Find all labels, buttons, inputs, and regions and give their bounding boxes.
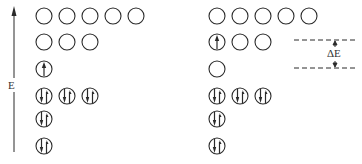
orbital-empty	[82, 8, 98, 24]
energy-axis-label: E	[8, 78, 15, 92]
orbital-empty	[59, 8, 75, 24]
orbital-empty	[301, 8, 317, 24]
orbital-paired	[209, 138, 225, 154]
orbital-paired	[59, 88, 75, 104]
orbital-paired	[209, 111, 225, 127]
orbital-empty	[209, 8, 225, 24]
orbital-paired	[255, 88, 271, 104]
delta-e-bracket	[294, 40, 355, 68]
orbital-up	[209, 34, 225, 50]
orbital-paired	[209, 88, 225, 104]
orbital-paired	[232, 88, 248, 104]
orbital-paired	[36, 138, 52, 154]
orbital-up	[36, 61, 52, 77]
orbital-paired	[36, 88, 52, 104]
orbital-empty	[59, 34, 75, 50]
orbital-empty	[278, 8, 294, 24]
orbital-paired	[82, 88, 98, 104]
orbital-empty	[36, 8, 52, 24]
energy-axis-arrowhead-icon	[12, 6, 17, 16]
orbital-empty	[36, 34, 52, 50]
orbital-empty	[209, 61, 225, 77]
orbital-empty	[82, 34, 98, 50]
orbital-empty	[128, 8, 144, 24]
delta-e-label: ΔE	[327, 47, 341, 59]
orbital-empty	[105, 8, 121, 24]
orbital-paired	[36, 111, 52, 127]
orbital-empty	[255, 8, 271, 24]
orbital-empty	[232, 8, 248, 24]
orbital-empty	[255, 34, 271, 50]
orbital-diagram	[0, 0, 362, 164]
orbital-empty	[232, 34, 248, 50]
